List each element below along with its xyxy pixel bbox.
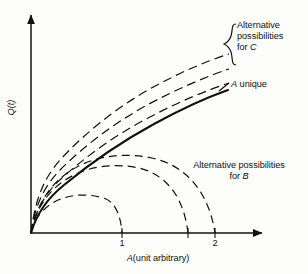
annotation-c-group: Alternative possibilities for C: [237, 20, 283, 54]
annotation-c-symbol: C: [250, 42, 257, 52]
figure-container: 1 2 Q(t) A(unit arbitrary) Alternative p…: [0, 0, 308, 274]
annotation-a-unique: A unique: [231, 79, 267, 90]
annotation-b-line2-prefix: for: [229, 171, 242, 181]
brace-c-group: [224, 24, 236, 65]
y-axis-label: Q(t): [6, 88, 17, 128]
annotation-b-symbol: B: [243, 171, 249, 181]
annotation-a-text: unique: [237, 79, 267, 89]
annotation-b-line2: for B: [180, 171, 298, 182]
annotation-c-line3: for C: [237, 42, 283, 53]
x-tick-label-1: 1: [115, 238, 129, 248]
annotation-c-line2: possibilities: [237, 31, 283, 42]
x-axis-label: A(unit arbitrary): [78, 253, 238, 264]
annotation-b-line1: Alternative possibilities: [180, 160, 298, 171]
x-axis-label-unit: (unit arbitrary): [133, 253, 189, 263]
annotation-c-line3-prefix: for: [237, 42, 250, 52]
curve-c-alternative-3: [31, 54, 229, 233]
annotation-c-line1: Alternative: [237, 20, 283, 31]
curve-c-alternative-1: [31, 83, 229, 233]
x-tick-label-2: 2: [208, 238, 222, 248]
curve-b-alternative-1: [31, 195, 122, 233]
annotation-b-group: Alternative possibilities for B: [180, 160, 298, 182]
